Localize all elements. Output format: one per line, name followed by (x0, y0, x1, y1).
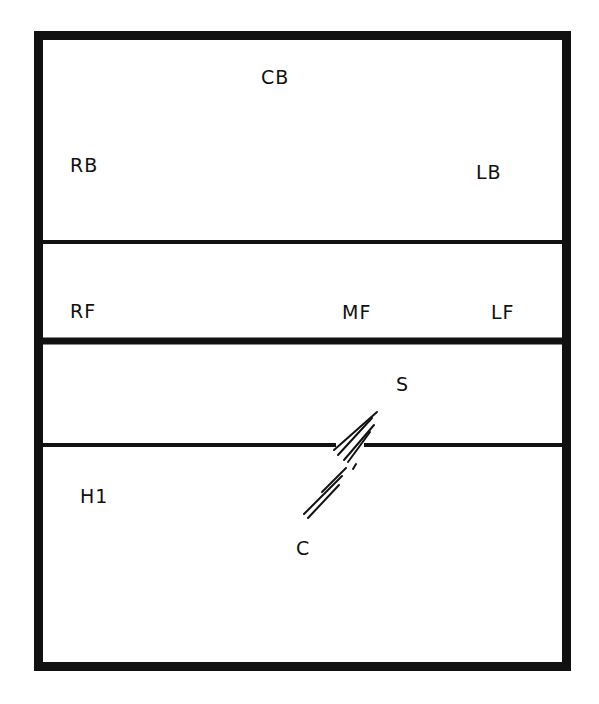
label-rf: RF (70, 300, 96, 322)
label-s: S (396, 373, 409, 395)
label-lb: LB (476, 161, 502, 183)
label-h1: H1 (80, 485, 108, 507)
label-mf: MF (342, 301, 371, 323)
label-lf: LF (491, 301, 515, 323)
label-cb: CB (261, 66, 289, 88)
outer-frame (39, 36, 567, 667)
label-c: C (296, 537, 310, 559)
label-rb: RB (70, 154, 98, 176)
field-diagram: CB RB LB RF MF LF S H1 C (0, 0, 599, 704)
hatched-path-icon (304, 412, 377, 518)
